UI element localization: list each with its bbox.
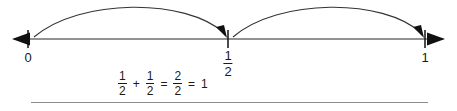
jump-arc-2-arrowhead-icon — [413, 25, 424, 38]
tick-label-0: 0 — [24, 51, 31, 64]
fraction-numerator: 2 — [173, 70, 182, 82]
fraction-one-half-first: 1 2 — [118, 70, 127, 97]
equation-equals-sign-first: = — [154, 78, 173, 90]
equation-term-1: 1 2 — [118, 70, 127, 97]
fraction-one-half: 1 2 — [223, 49, 232, 78]
tick-label-one-half: 1 2 — [223, 49, 232, 78]
equation-plus-sign: + — [127, 78, 146, 90]
jump-arc-one-half-to-one — [233, 7, 421, 37]
equation-result-fraction: 2 2 — [173, 70, 182, 97]
fraction-numerator: 1 — [118, 70, 127, 82]
equation-term-2: 1 2 — [146, 70, 155, 97]
fraction-numerator: 1 — [223, 49, 232, 62]
right-arrowhead-icon — [427, 33, 445, 46]
equation-row: 1 2 + 1 2 = 2 2 = 1 — [118, 70, 208, 97]
tick-label-1: 1 — [421, 51, 428, 64]
fraction-two-halves: 2 2 — [173, 70, 182, 97]
number-line-figure: 0 1 2 1 1 2 + 1 2 = — [0, 0, 457, 111]
equation-result-whole: 1 — [201, 78, 208, 90]
jump-arc-zero-to-one-half — [34, 7, 224, 37]
fraction-numerator: 1 — [146, 70, 155, 82]
bottom-divider-rule — [31, 102, 428, 103]
fraction-denominator: 2 — [223, 65, 232, 78]
jump-arc-1-arrowhead-icon — [216, 25, 227, 38]
equation-equals-sign-second: = — [182, 78, 201, 90]
fraction-denominator: 2 — [173, 85, 182, 97]
fraction-denominator: 2 — [118, 85, 127, 97]
fraction-one-half-second: 1 2 — [146, 70, 155, 97]
fraction-denominator: 2 — [146, 85, 155, 97]
